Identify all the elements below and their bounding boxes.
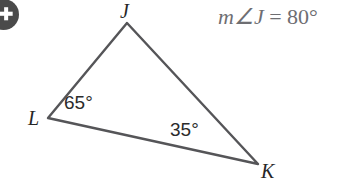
angle-label-l-65: 65° — [64, 92, 93, 114]
angle-measure-equation: m∠J = 80° — [218, 4, 318, 30]
vertex-label-k: K — [261, 160, 274, 183]
geometry-diagram-screenshot: ✚ J L K 65° 35° m∠J = 80° — [0, 0, 362, 188]
equation-measure-term: m∠J — [218, 4, 264, 29]
angle-label-k-35: 35° — [170, 119, 199, 141]
equation-value: 80° — [287, 4, 318, 29]
equation-equals-sign: = — [269, 4, 281, 29]
vertex-label-j: J — [120, 0, 129, 23]
vertex-label-l: L — [28, 107, 39, 130]
